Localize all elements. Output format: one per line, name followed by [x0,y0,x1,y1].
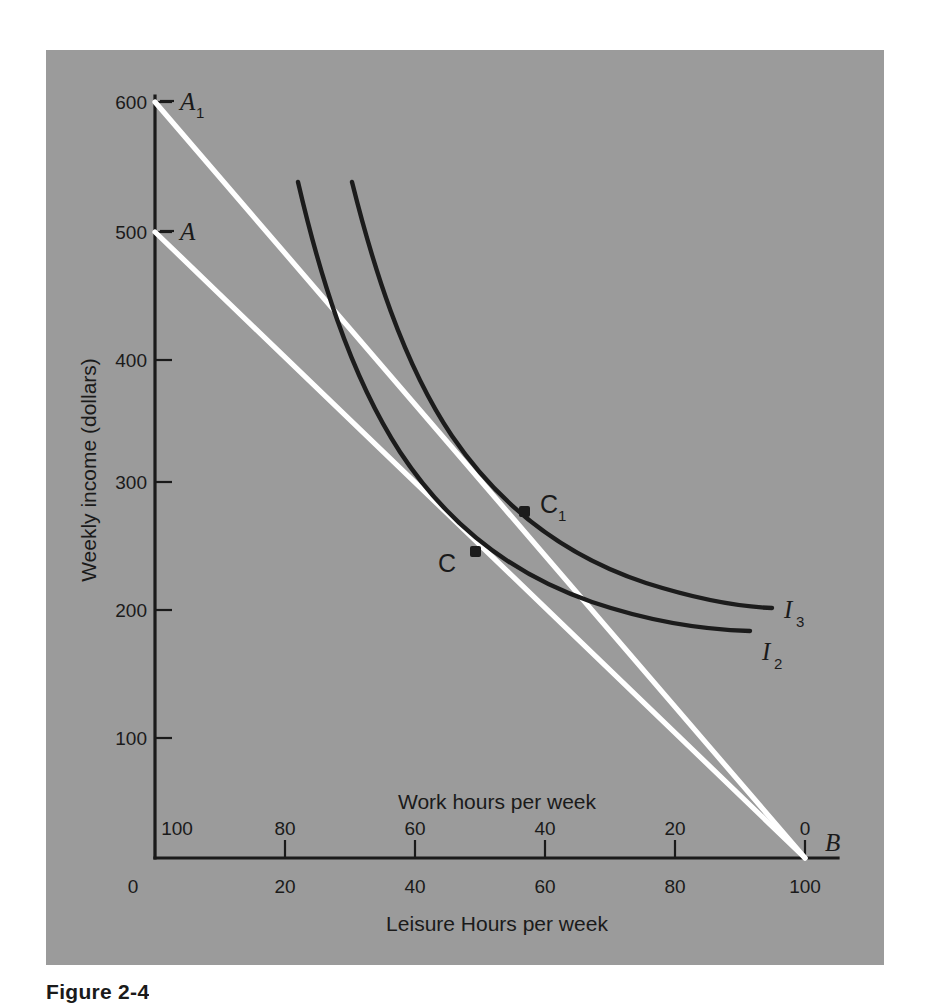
budget-line-A1 [155,102,805,858]
x-tick-leisure-40: 40 [404,876,425,897]
endpoint-label-A: A [178,218,196,245]
x-tick-work-20: 20 [664,818,685,839]
x-tick-work-40: 40 [534,818,555,839]
y-axis-title: Weekly income (dollars) [77,358,100,582]
curve-label-I3-sub: 3 [796,613,804,630]
curve-label-I3: I 3 [783,596,804,630]
x-tick-leisure-20: 20 [274,876,295,897]
tangency-point-C-marker [470,546,481,557]
x-axis-title-leisure: Leisure Hours per week [386,912,608,935]
indifference-curve-chart: 100 200 300 400 500 600 Weekly income (d… [0,0,930,1007]
x-tick-work-60: 60 [404,818,425,839]
curve-label-I2-base: I [761,638,772,665]
x-axis-leisure-ticks [155,840,805,858]
x-axis-title-work: Work hours per week [398,790,597,813]
figure-caption: Figure 2-4 [46,980,149,1007]
endpoint-label-A1: A 1 [178,88,204,121]
endpoint-A1-sub: 1 [196,104,204,121]
figure-page: 100 200 300 400 500 600 Weekly income (d… [0,0,930,1007]
y-tick-label-100: 100 [115,728,147,749]
indifference-curve-I2 [298,182,750,631]
y-tick-label-400: 400 [115,350,147,371]
indifference-curve-I3 [352,182,772,608]
x-tick-leisure-80: 80 [664,876,685,897]
curve-label-I2: I 2 [761,638,782,672]
tangency-point-C1-marker [519,506,530,517]
x-tick-work-0: 0 [800,818,811,839]
curve-label-I3-base: I [783,596,794,623]
endpoint-A1-base: A [178,88,196,115]
tangency-point-C1-label: C 1 [540,490,566,524]
y-tick-label-500: 500 [115,222,147,243]
y-axis-ticks [155,102,172,738]
tangency-point-C1-base: C [540,490,558,518]
x-tick-leisure-0: 0 [128,876,139,897]
curve-label-I2-sub: 2 [774,655,782,672]
x-tick-leisure-100: 100 [789,876,821,897]
x-tick-leisure-60: 60 [534,876,555,897]
tangency-point-C-label: C [438,549,456,577]
budget-line-A [155,232,805,858]
y-tick-label-300: 300 [115,472,147,493]
endpoint-label-B: B [825,829,840,856]
x-tick-work-80: 80 [274,818,295,839]
y-tick-label-600: 600 [115,92,147,113]
x-tick-work-100: 100 [161,818,193,839]
y-tick-label-200: 200 [115,600,147,621]
tangency-point-C1-sub: 1 [558,507,566,524]
